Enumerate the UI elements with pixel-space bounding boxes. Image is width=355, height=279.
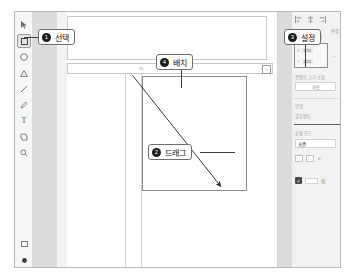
stroke-label: 획 xyxy=(321,178,325,184)
callout-settings-number: 3 xyxy=(288,33,297,42)
divider-2 xyxy=(294,124,340,125)
opacity-label: 불투명도 xyxy=(295,113,311,119)
magnifier-icon xyxy=(20,149,28,157)
auto-size-button[interactable]: 자동 xyxy=(295,82,336,91)
cursor-arrow-icon xyxy=(21,21,27,29)
ruler-tick-label: 90 xyxy=(139,66,143,71)
stroke-swatch[interactable] xyxy=(306,155,314,162)
callout-drag-number: 2 xyxy=(152,148,161,157)
stroke-checkbox[interactable]: ✓ xyxy=(295,177,302,184)
callout-select-label: 선택 xyxy=(55,32,69,43)
blend-mode-label: 혼합 모드 xyxy=(295,130,312,136)
text-tool[interactable]: T xyxy=(17,114,31,128)
align-left-icon[interactable] xyxy=(295,16,302,23)
x-field-value[interactable]: 170 xyxy=(302,48,313,53)
panel-tab-label: 편집 xyxy=(331,28,339,34)
square-outline-icon xyxy=(21,241,28,247)
fill-swatch[interactable] xyxy=(295,155,303,162)
document-gutter-left xyxy=(33,12,57,267)
pen-icon xyxy=(20,101,28,109)
position-group: X 170 Y 220 xyxy=(294,43,328,68)
align-center-icon[interactable] xyxy=(307,16,314,23)
zoom-tool[interactable] xyxy=(17,146,31,160)
callout-arrange-label: 배치 xyxy=(173,57,187,68)
polygon-tool[interactable] xyxy=(17,66,31,80)
screenshot-root: T 90 □ xyxy=(0,0,355,279)
callout-settings-label: 설정 xyxy=(301,32,315,43)
y-field-value[interactable]: 220 xyxy=(302,59,313,64)
callout-drag[interactable]: 2 드래그 xyxy=(148,144,192,160)
circle-icon xyxy=(20,53,28,61)
properties-panel-inner: 편집 X 170 Y 220 • 컨텐츠 xyxy=(292,12,340,267)
swatch-count: 0 xyxy=(318,156,320,161)
stroke-row: ✓ 획 xyxy=(295,177,325,184)
leader-3 xyxy=(305,45,306,67)
x-field-label: X xyxy=(297,48,300,53)
left-toolbar: T xyxy=(15,12,33,267)
leader-2 xyxy=(200,152,235,153)
triangle-icon xyxy=(20,70,28,77)
resize-handle-icon[interactable]: □ xyxy=(262,65,271,74)
callout-select[interactable]: 1 선택 xyxy=(38,29,75,45)
frame-icon xyxy=(20,133,28,141)
document-gutter-left-inner xyxy=(57,12,67,267)
auto-size-label: 컨텐츠 크기 조정 xyxy=(295,74,325,80)
callout-drag-label: 드래그 xyxy=(165,147,186,158)
drawn-rectangle[interactable] xyxy=(142,76,247,191)
guide-line-1 xyxy=(125,74,126,267)
align-right-icon[interactable] xyxy=(319,16,326,23)
callout-select-number: 1 xyxy=(42,33,51,42)
pen-tool[interactable] xyxy=(17,98,31,112)
leader-4 xyxy=(181,70,182,88)
swatch-row: 0 xyxy=(295,155,320,162)
leader-1 xyxy=(24,37,38,38)
app-window: T 90 □ xyxy=(14,11,341,268)
line-icon xyxy=(20,85,28,93)
callout-arrange-number: 4 xyxy=(160,58,169,67)
line-tool[interactable] xyxy=(17,82,31,96)
document-gutter-right xyxy=(278,12,292,267)
blend-mode-select[interactable]: 표준 xyxy=(295,139,336,148)
callout-settings[interactable]: 3 설정 xyxy=(284,29,321,45)
artboard-tool[interactable] xyxy=(17,237,31,251)
divider-1 xyxy=(294,98,338,99)
style-section-label: 모양 xyxy=(295,103,303,109)
align-toolbar xyxy=(295,16,326,23)
callout-arrange[interactable]: 4 배치 xyxy=(156,54,193,70)
color-tool[interactable] xyxy=(17,253,31,267)
frame-tool[interactable] xyxy=(17,130,31,144)
link-ratio-icon[interactable]: • xyxy=(334,54,335,59)
stroke-value-field[interactable] xyxy=(305,178,318,184)
pointer-tool[interactable] xyxy=(17,18,31,32)
ellipse-tool[interactable] xyxy=(17,50,31,64)
text-t-icon: T xyxy=(22,117,27,125)
filled-circle-icon xyxy=(21,257,28,264)
properties-panel: 편집 X 170 Y 220 • 컨텐츠 xyxy=(277,12,340,267)
y-field-label: Y xyxy=(297,59,300,64)
canvas-area[interactable]: 90 □ xyxy=(67,12,277,267)
square-icon xyxy=(21,38,28,45)
